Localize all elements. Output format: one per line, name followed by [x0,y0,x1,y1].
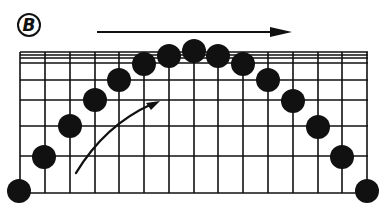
ball [182,39,206,63]
ball [157,44,181,68]
ball [32,145,56,169]
ball [256,68,280,92]
ball [206,44,230,68]
ball [132,52,156,76]
ball [7,179,31,203]
ball [281,89,305,113]
ball [306,115,330,139]
horizontal-arrow-icon [97,27,292,37]
ball [330,145,354,169]
curved-arrow-icon [76,101,160,173]
parabola-diagram [0,0,386,215]
ball [355,179,379,203]
ball [58,114,82,138]
ball [83,88,107,112]
ball [231,52,255,76]
ball [107,68,131,92]
